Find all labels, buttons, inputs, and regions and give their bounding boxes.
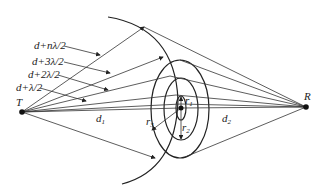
path-label-1: d+λ/2: [16, 81, 43, 93]
wavefront-arc: [108, 17, 178, 184]
path-label-3: d+3λ/2: [32, 55, 64, 67]
fresnel-diagram: T R d+nλ/2 d+3λ/2 d+2λ/2 d+λ/2 d1 d2 r1 …: [0, 0, 323, 187]
rays-to-R: [144, 27, 306, 157]
transmitter-point: [19, 109, 25, 115]
transmitter-label: T: [16, 96, 23, 108]
path-label-2: d+2λ/2: [28, 68, 60, 80]
d2-label: d2: [222, 112, 232, 126]
path-label-n: d+nλ/2: [34, 39, 66, 51]
receiver-label: R: [303, 90, 311, 102]
center-point: [179, 106, 184, 111]
receiver-point: [303, 104, 309, 110]
r2-label: r2: [182, 121, 190, 135]
r3-label: r3: [146, 115, 154, 129]
d1-label: d1: [96, 112, 105, 126]
